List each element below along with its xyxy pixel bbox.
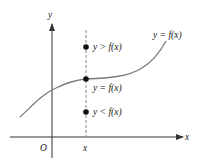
- point-above-curve: [83, 44, 89, 50]
- function-curve: [20, 41, 166, 117]
- point-below-curve: [83, 109, 89, 115]
- y-axis-label: y: [47, 10, 53, 20]
- x-tick-label: x: [82, 143, 88, 153]
- curve-label: y = f(x): [152, 30, 182, 41]
- point-on-label: y = f(x): [92, 83, 122, 94]
- point-on-curve: [83, 76, 89, 82]
- diagram-canvas: y x O x y = f(x) y > f(x) y = f(x) y < f…: [0, 0, 199, 160]
- point-above-label: y > f(x): [92, 42, 122, 53]
- point-below-label: y < f(x): [92, 107, 122, 118]
- origin-label: O: [40, 143, 47, 153]
- x-axis-label: x: [184, 132, 190, 142]
